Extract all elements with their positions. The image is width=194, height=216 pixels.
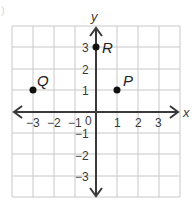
origin-label: 0 <box>85 114 92 128</box>
y-tick-label: −2 <box>75 149 89 163</box>
x-tick-label: 1 <box>114 116 121 130</box>
y-axis-label: y <box>90 9 99 24</box>
x-tick-label: −2 <box>47 116 61 130</box>
coordinate-plane: x y −3 −2 −1 1 2 3 0 3 2 1 −1 −2 −3 R P … <box>0 0 194 216</box>
x-tick-label: −3 <box>26 116 40 130</box>
point-label: Q <box>37 72 49 89</box>
y-tick-label: 2 <box>82 63 89 77</box>
x-tick-label: 2 <box>135 116 142 130</box>
y-tick-label: 3 <box>82 41 89 55</box>
point-label: R <box>102 39 113 56</box>
point-label: P <box>123 72 133 89</box>
y-tick-label: −1 <box>75 127 89 141</box>
x-axis-label: x <box>182 105 190 120</box>
y-tick-label: −3 <box>75 170 89 184</box>
y-tick-label: 1 <box>82 84 89 98</box>
x-tick-label: 3 <box>155 116 162 130</box>
